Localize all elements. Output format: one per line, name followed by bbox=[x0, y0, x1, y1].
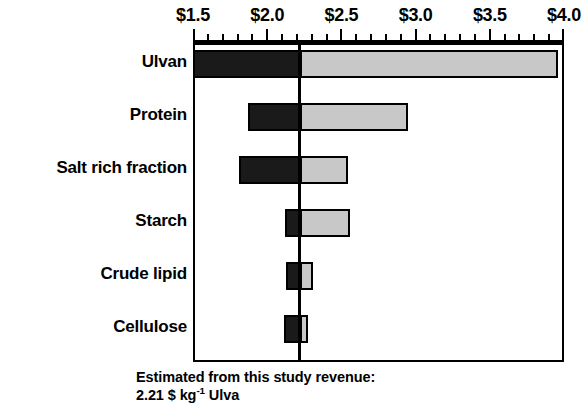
tornado-bar-low-segment bbox=[239, 156, 300, 184]
x-axis-tick-label: $2.0 bbox=[250, 4, 284, 26]
y-axis-category-label: Starch bbox=[0, 211, 187, 231]
y-axis-category-label: Protein bbox=[0, 105, 187, 125]
axis-minor-tick bbox=[237, 34, 239, 40]
tornado-bar-high-segment bbox=[300, 156, 348, 184]
tornado-bar-high-segment bbox=[300, 103, 407, 131]
x-axis-tick-label: $2.5 bbox=[324, 4, 358, 26]
axis-major-tick bbox=[266, 29, 268, 40]
axis-major-tick bbox=[340, 29, 342, 40]
axis-minor-tick bbox=[533, 34, 535, 40]
axis-minor-tick bbox=[207, 34, 209, 40]
axis-minor-tick bbox=[504, 34, 506, 40]
axis-minor-tick bbox=[429, 34, 431, 40]
axis-major-tick bbox=[193, 29, 195, 40]
axis-major-tick bbox=[489, 29, 491, 40]
caption-value: 2.21 $ kg bbox=[136, 387, 196, 403]
x-axis-tick-label: $3.0 bbox=[399, 4, 433, 26]
tornado-bar-low-segment bbox=[248, 103, 300, 131]
tornado-bar-high-segment bbox=[300, 209, 350, 237]
tornado-bar bbox=[285, 209, 350, 237]
y-axis-category-labels: UlvanProteinSalt rich fractionStarchCrud… bbox=[0, 43, 187, 362]
chart-caption: Estimated from this study revenue: 2.21 … bbox=[136, 368, 556, 404]
plot-area bbox=[193, 43, 564, 362]
axis-major-tick bbox=[562, 29, 564, 40]
axis-minor-tick bbox=[548, 34, 550, 40]
axis-major-tick bbox=[415, 29, 417, 40]
tornado-bar-high-segment bbox=[300, 315, 308, 343]
caption-exponent: -1 bbox=[196, 385, 205, 396]
x-axis-tick-label: $1.5 bbox=[176, 4, 210, 26]
y-axis-category-label: Ulvan bbox=[0, 52, 187, 72]
baseline-reference-line bbox=[298, 43, 301, 362]
x-axis-tick-label: $4.0 bbox=[547, 4, 581, 26]
axis-minor-tick bbox=[385, 34, 387, 40]
tornado-bar bbox=[284, 315, 309, 343]
axis-minor-tick bbox=[296, 34, 298, 40]
y-axis-category-label: Crude lipid bbox=[0, 264, 187, 284]
axis-minor-tick bbox=[444, 34, 446, 40]
axis-minor-tick bbox=[400, 34, 402, 40]
x-axis-tick-labels: $1.5$2.0$2.5$3.0$3.5$4.0 bbox=[0, 4, 577, 28]
axis-minor-tick bbox=[474, 34, 476, 40]
axis-minor-tick bbox=[326, 34, 328, 40]
tornado-bar bbox=[193, 50, 558, 78]
tornado-bar-high-segment bbox=[300, 50, 557, 78]
caption-line-2: 2.21 $ kg-1 Ulva bbox=[136, 386, 556, 404]
y-axis-category-label: Salt rich fraction bbox=[0, 158, 187, 178]
axis-minor-tick bbox=[355, 34, 357, 40]
axis-minor-tick bbox=[518, 34, 520, 40]
axis-minor-tick bbox=[370, 34, 372, 40]
axis-minor-tick bbox=[459, 34, 461, 40]
axis-minor-tick bbox=[281, 34, 283, 40]
caption-line-1: Estimated from this study revenue: bbox=[136, 368, 556, 386]
axis-minor-tick bbox=[222, 34, 224, 40]
tornado-bar-high-segment bbox=[300, 262, 312, 290]
plot-inner bbox=[195, 45, 562, 360]
axis-minor-tick bbox=[311, 34, 313, 40]
axis-minor-tick bbox=[251, 34, 253, 40]
tornado-bar-low-segment bbox=[193, 50, 300, 78]
tornado-bar bbox=[248, 103, 408, 131]
y-axis-category-label: Cellulose bbox=[0, 317, 187, 337]
x-axis-tick-label: $3.5 bbox=[473, 4, 507, 26]
tornado-bar bbox=[239, 156, 348, 184]
caption-species: Ulva bbox=[205, 387, 239, 403]
